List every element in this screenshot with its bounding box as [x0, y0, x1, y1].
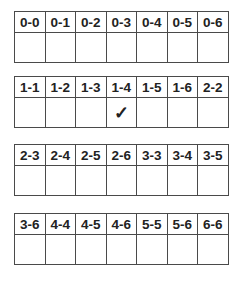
mark-cell[interactable]	[106, 166, 137, 196]
domino-label: 2-5	[76, 145, 107, 166]
domino-label: 0-5	[167, 12, 198, 33]
mark-cell[interactable]	[106, 235, 137, 265]
mark-cell[interactable]	[15, 166, 46, 196]
mark-cell[interactable]	[76, 166, 107, 196]
domino-label: 0-2	[76, 12, 107, 33]
domino-label: 3-6	[15, 214, 46, 235]
domino-label: 4-5	[76, 214, 107, 235]
mark-cell[interactable]	[76, 33, 107, 63]
checkmark-cell[interactable]: ✓	[106, 98, 137, 128]
mark-cell[interactable]	[45, 166, 76, 196]
mark-cell[interactable]	[167, 33, 198, 63]
domino-label: 2-6	[106, 145, 137, 166]
mark-cell[interactable]	[198, 33, 229, 63]
mark-row	[15, 235, 229, 265]
mark-cell[interactable]	[76, 235, 107, 265]
domino-label: 1-6	[167, 77, 198, 98]
domino-table-1: 0-0 0-1 0-2 0-3 0-4 0-5 0-6	[14, 11, 229, 63]
mark-cell[interactable]	[198, 235, 229, 265]
domino-label: 0-0	[15, 12, 46, 33]
domino-label: 1-4	[106, 77, 137, 98]
mark-cell[interactable]	[137, 33, 168, 63]
domino-label: 3-4	[167, 145, 198, 166]
mark-row: ✓	[15, 98, 229, 128]
mark-cell[interactable]	[198, 166, 229, 196]
mark-cell[interactable]	[15, 33, 46, 63]
domino-label: 0-6	[198, 12, 229, 33]
domino-label: 4-6	[106, 214, 137, 235]
domino-table-4: 3-6 4-4 4-5 4-6 5-5 5-6 6-6	[14, 213, 229, 265]
mark-cell[interactable]	[15, 235, 46, 265]
mark-row	[15, 33, 229, 63]
mark-cell[interactable]	[45, 235, 76, 265]
domino-label: 1-5	[137, 77, 168, 98]
domino-label: 1-3	[76, 77, 107, 98]
mark-cell[interactable]	[76, 98, 107, 128]
mark-cell[interactable]	[167, 166, 198, 196]
mark-cell[interactable]	[198, 98, 229, 128]
domino-label: 2-3	[15, 145, 46, 166]
domino-label: 1-1	[15, 77, 46, 98]
domino-table-2: 1-1 1-2 1-3 1-4 1-5 1-6 2-2 ✓	[14, 76, 229, 128]
domino-label: 0-4	[137, 12, 168, 33]
domino-label: 5-6	[167, 214, 198, 235]
mark-cell[interactable]	[137, 166, 168, 196]
domino-label: 6-6	[198, 214, 229, 235]
mark-cell[interactable]	[167, 98, 198, 128]
domino-label: 2-4	[45, 145, 76, 166]
domino-label: 3-3	[137, 145, 168, 166]
domino-label: 0-1	[45, 12, 76, 33]
mark-cell[interactable]	[106, 33, 137, 63]
domino-label: 4-4	[45, 214, 76, 235]
mark-cell[interactable]	[45, 33, 76, 63]
mark-cell[interactable]	[137, 98, 168, 128]
mark-row	[15, 166, 229, 196]
header-row: 2-3 2-4 2-5 2-6 3-3 3-4 3-5	[15, 145, 229, 166]
domino-label: 1-2	[45, 77, 76, 98]
domino-label: 5-5	[137, 214, 168, 235]
mark-cell[interactable]	[45, 98, 76, 128]
mark-cell[interactable]	[167, 235, 198, 265]
header-row: 3-6 4-4 4-5 4-6 5-5 5-6 6-6	[15, 214, 229, 235]
domino-label: 2-2	[198, 77, 229, 98]
mark-cell[interactable]	[15, 98, 46, 128]
header-row: 0-0 0-1 0-2 0-3 0-4 0-5 0-6	[15, 12, 229, 33]
domino-table-3: 2-3 2-4 2-5 2-6 3-3 3-4 3-5	[14, 144, 229, 196]
domino-label: 0-3	[106, 12, 137, 33]
mark-cell[interactable]	[137, 235, 168, 265]
header-row: 1-1 1-2 1-3 1-4 1-5 1-6 2-2	[15, 77, 229, 98]
domino-label: 3-5	[198, 145, 229, 166]
